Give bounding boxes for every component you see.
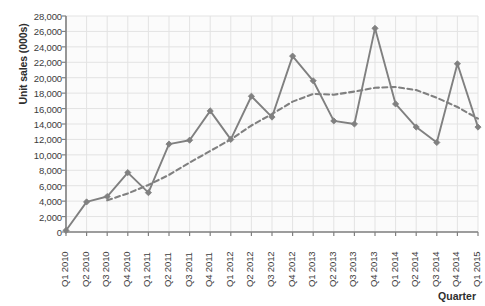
x-tick-label: Q1 2013 <box>306 252 317 287</box>
x-tick-label: Q3 2014 <box>430 252 441 287</box>
x-tick-label: Q1 2011 <box>141 252 152 287</box>
x-tick-label: Q3 2013 <box>347 252 358 287</box>
x-tick-label: Q3 2011 <box>183 252 194 287</box>
x-axis-title: Quarter <box>438 290 476 302</box>
x-tick-label: Q4 2013 <box>368 252 379 287</box>
x-tick-label: Q1 2014 <box>389 252 400 287</box>
x-tick-label: Q2 2014 <box>409 252 420 287</box>
x-tick-label: Q2 2012 <box>244 252 255 287</box>
x-tick-label: Q4 2010 <box>121 252 132 287</box>
x-tick-label: Q4 2011 <box>203 252 214 287</box>
x-tick-label: Q4 2014 <box>450 252 461 287</box>
x-tick-label: Q3 2010 <box>100 252 111 287</box>
x-tick-label: Q2 2010 <box>80 252 91 287</box>
x-tick-label: Q1 2015 <box>471 252 482 287</box>
x-tick-label: Q1 2010 <box>59 252 70 287</box>
x-tick-label: Q2 2013 <box>327 252 338 287</box>
x-tick-label: Q1 2012 <box>224 252 235 287</box>
x-axis-tick-labels: Q1 2010Q2 2010Q3 2010Q4 2010Q1 2011Q2 20… <box>0 0 485 306</box>
x-tick-label: Q4 2012 <box>286 252 297 287</box>
x-tick-label: Q2 2011 <box>162 252 173 287</box>
unit-sales-line-chart: Unit sales (000s) 02,0004,0006,0008,0001… <box>0 0 485 306</box>
x-tick-label: Q3 2012 <box>265 252 276 287</box>
